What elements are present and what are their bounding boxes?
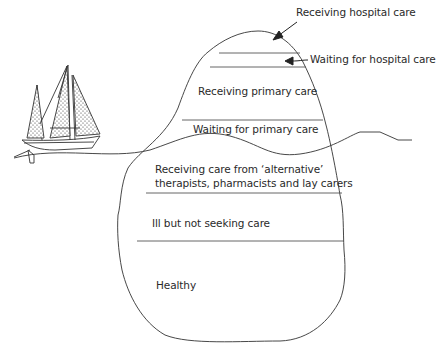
label-receiving-hospital-care: Receiving hospital care (296, 6, 416, 19)
label-healthy: Healthy (156, 279, 196, 292)
label-waiting-primary-care: Waiting for primary care (193, 123, 318, 136)
label-waiting-hospital-care: Waiting for hospital care (310, 53, 436, 66)
label-receiving-primary-care: Receiving primary care (198, 85, 317, 98)
layer-dividers (137, 53, 344, 241)
sailboat-icon (14, 65, 100, 163)
label-alternative-care-line2: therapists, pharmacists and lay carers (155, 177, 353, 190)
label-alternative-care-line1: Receiving care from ‘alternative’ (155, 163, 323, 176)
arrow-receiving-hospital (273, 22, 297, 40)
label-ill-not-seeking-care: Ill but not seeking care (152, 217, 270, 230)
arrow-waiting-hospital (285, 57, 308, 65)
iceberg-diagram: Receiving hospital care Waiting for hosp… (0, 0, 437, 349)
